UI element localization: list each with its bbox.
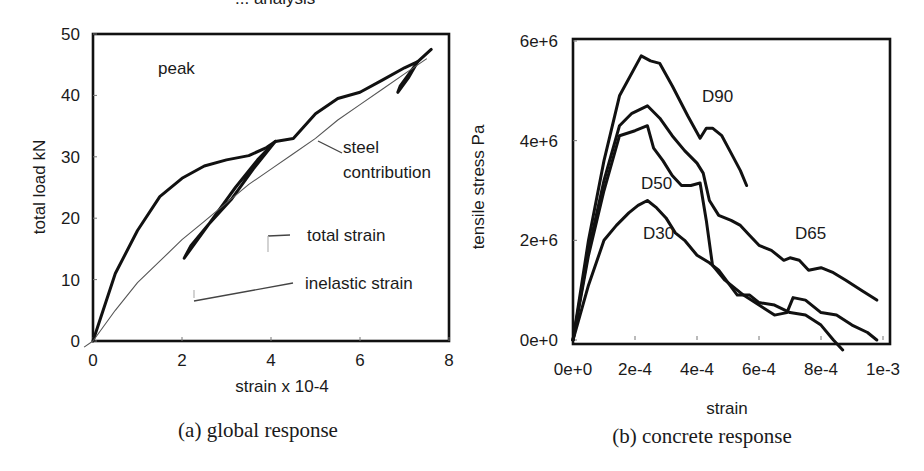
x-tick-label: 0 — [88, 351, 97, 370]
x-tick-label: 4e-4 — [680, 360, 714, 379]
y-tick-label: 20 — [61, 209, 80, 228]
x-axis-label-b: strain — [706, 399, 748, 418]
x-tick-label: 8 — [444, 351, 453, 370]
leader-steel — [318, 141, 342, 153]
x-tick-label: 8e-4 — [804, 360, 838, 379]
x-tick-label: 6e-4 — [742, 360, 776, 379]
x-tick-label: 2 — [177, 351, 186, 370]
leader-total-strain — [268, 235, 290, 236]
y-axis-label-b: tensile stress Pa — [469, 124, 488, 249]
label-d90: D90 — [702, 87, 733, 106]
figure: ... analysis 01020304050 02468 peak stee… — [0, 0, 924, 471]
y-tick-label: 50 — [61, 25, 80, 44]
label-d65: D65 — [795, 224, 826, 243]
y-tick-label: 30 — [61, 148, 80, 167]
label-d50: D50 — [641, 174, 672, 193]
chart-concrete-response: 0e+02e+64e+66e+6 0e+02e-44e-46e-48e-41e-… — [469, 32, 900, 448]
series-group-a — [84, 49, 431, 347]
annotation-contribution: contribution — [343, 163, 431, 182]
label-d30: D30 — [643, 224, 674, 243]
y-tick-label: 4e+6 — [520, 132, 558, 151]
leader-inelastic-strain — [194, 283, 293, 301]
y-tick-label: 6e+6 — [520, 32, 558, 51]
series-line-total-strain — [93, 49, 431, 341]
caption-b: (b) concrete response — [612, 424, 792, 448]
y-axis-ticks-b: 0e+02e+64e+66e+6 — [520, 32, 577, 350]
annotation-steel: steel — [343, 138, 379, 157]
y-tick-label: 0 — [71, 332, 80, 351]
y-tick-label: 40 — [61, 86, 80, 105]
series-line-d50 — [573, 126, 877, 340]
series-line-steel-contribution — [84, 59, 427, 348]
y-tick-label: 0e+0 — [520, 331, 558, 350]
x-tick-label: 0e+0 — [554, 360, 592, 379]
annotation-total-strain: total strain — [307, 226, 385, 245]
y-tick-label: 2e+6 — [520, 231, 558, 250]
x-tick-label: 4 — [266, 351, 275, 370]
y-axis-ticks-a: 01020304050 — [61, 25, 97, 351]
x-tick-label: 2e-4 — [618, 360, 652, 379]
plot-frame-b — [573, 39, 890, 344]
annotation-inelastic-strain: inelastic strain — [305, 274, 413, 293]
y-tick-label: 10 — [61, 271, 80, 290]
chart-global-response: 01020304050 02468 peak steel contributio… — [30, 25, 454, 442]
title-fragment: ... analysis — [235, 0, 315, 8]
caption-a: (a) global response — [178, 418, 338, 442]
annotation-peak: peak — [158, 59, 195, 78]
y-axis-label-a: total load kN — [30, 140, 49, 235]
x-axis-label-a: strain x 10-4 — [235, 377, 329, 396]
x-tick-label: 6 — [355, 351, 364, 370]
x-tick-label: 1e-3 — [866, 360, 900, 379]
x-axis-ticks-b: 0e+02e-44e-46e-48e-41e-3 — [554, 336, 900, 379]
